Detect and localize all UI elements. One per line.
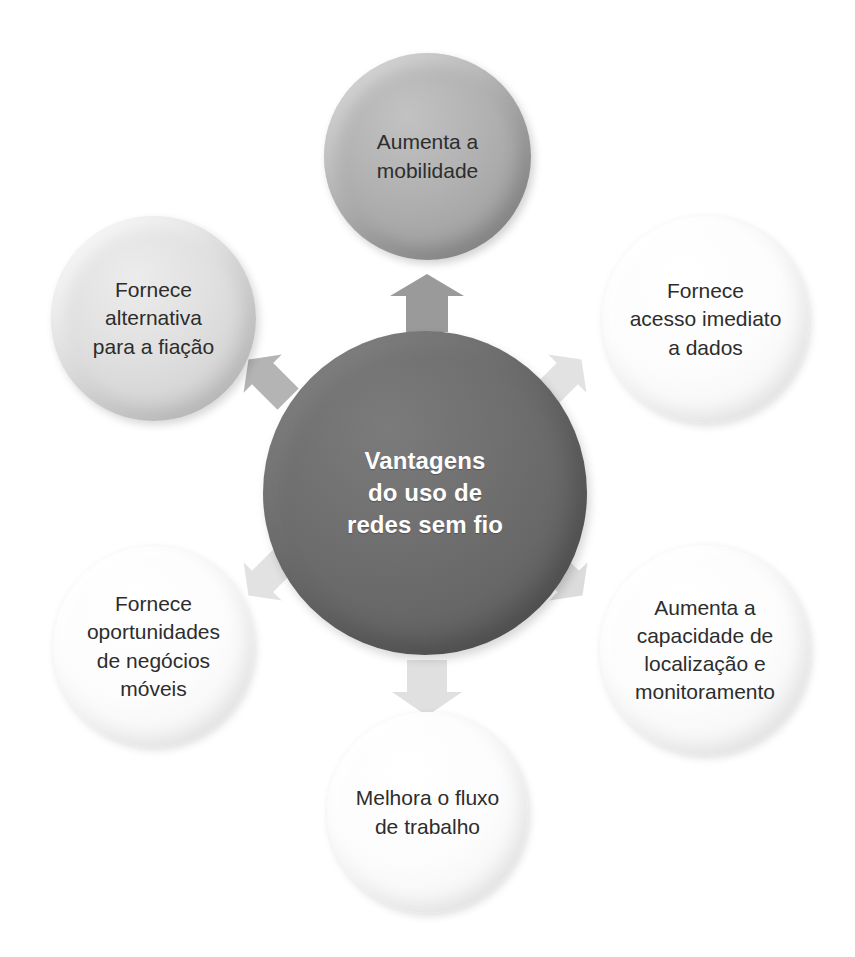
center-hub-circle: Vantagens do uso de redes sem fio (263, 331, 587, 655)
node-label-fornece-acesso-imediato: Fornece acesso imediato a dados (622, 277, 790, 361)
node-label-fornece-oportunidades-negocios: Fornece oportunidades de negócios móveis (79, 590, 228, 703)
node-melhora-fluxo-trabalho: Melhora o fluxo de trabalho (327, 712, 528, 913)
node-fornece-alternativa-fiacao: Fornece alternativa para a fiação (51, 216, 256, 421)
node-aumenta-mobilidade: Aumenta a mobilidade (324, 53, 531, 260)
node-fornece-oportunidades-negocios: Fornece oportunidades de negócios móveis (53, 546, 254, 747)
node-label-fornece-alternativa-fiacao: Fornece alternativa para a fiação (85, 276, 222, 360)
wireless-advantages-diagram: Vantagens do uso de redes sem fio Aument… (0, 0, 855, 957)
arrow-up-icon (388, 272, 466, 334)
node-label-aumenta-capacidade-localizacao: Aumenta a capacidade de localização e mo… (627, 594, 783, 707)
center-hub-label: Vantagens do uso de redes sem fio (339, 445, 511, 540)
arrow-down-icon (390, 658, 464, 718)
node-fornece-acesso-imediato: Fornece acesso imediato a dados (602, 216, 809, 423)
node-aumenta-capacidade-localizacao: Aumenta a capacidade de localização e mo… (600, 545, 810, 755)
node-label-melhora-fluxo-trabalho: Melhora o fluxo de trabalho (348, 784, 508, 840)
node-label-aumenta-mobilidade: Aumenta a mobilidade (369, 128, 487, 184)
